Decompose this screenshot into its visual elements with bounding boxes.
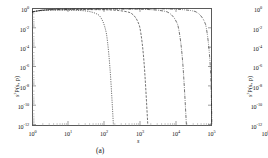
panel-a-ytick-1: 10-2 [2,25,29,33]
panel-b-ytick-2: 10-4 [235,44,262,52]
panel-a-ytick-0: 100 [2,5,29,13]
panel-a-xtick-1: 101 [58,129,79,137]
panel-a-tick-marks [32,8,212,126]
panel-a-x-axis-label: s [137,137,139,144]
panel-a-curves [32,8,212,126]
panel-b-y-axis-label: sτP(s, p) [245,76,253,97]
curve-series-0 [32,10,113,125]
panel-b-ytick-5: 10-10 [235,102,262,110]
panel-a-xtick-3: 103 [130,129,151,137]
panel-a: 100 10-2 10-4 10-6 10-8 10-10 10-12 sτP(… [0,0,224,158]
panel-a-xtick-2: 102 [94,129,115,137]
panel-a-xtick-5: 105 [201,129,222,137]
curve-series-3 [32,9,212,125]
panel-a-caption: (a) [96,146,104,155]
panel-a-y-axis-label: sτP(s, p) [12,76,20,97]
curve-series-2 [32,9,186,125]
panel-a-ytick-2: 10-4 [2,44,29,52]
panel-b-ytick-1: 10-2 [235,25,262,33]
panel-a-xtick-4: 104 [166,129,187,137]
panel-a-ytick-3: 10-6 [2,63,29,71]
panel-b-ytick-3: 10-6 [235,63,262,71]
panel-b-ytick-0: 100 [235,5,262,13]
figure-canvas: 100 10-2 10-4 10-6 10-8 10-10 10-12 sτP(… [0,0,268,158]
panel-a-ytick-5: 10-10 [2,102,29,110]
panel-b-xtick-0: 100 [255,129,268,137]
panel-b: 100 10-2 10-4 10-6 10-8 10-10 10-12 sτP(… [224,0,268,158]
panel-a-xtick-0: 100 [22,129,43,137]
curve-series-1 [32,10,148,125]
